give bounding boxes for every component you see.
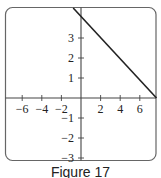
figure-caption: Figure 17 xyxy=(0,164,161,178)
x-tick-label: 2 xyxy=(98,102,104,116)
y-tick-label: −2 xyxy=(61,131,74,145)
y-tick-label: −3 xyxy=(61,151,74,165)
series-line xyxy=(73,8,156,98)
x-tick-label: 4 xyxy=(117,102,123,116)
y-tick-label: 3 xyxy=(68,31,74,45)
x-tick-label: −6 xyxy=(16,102,29,116)
y-tick-label: −1 xyxy=(61,111,74,125)
x-tick-label: 6 xyxy=(137,102,143,116)
y-tick-label: 2 xyxy=(68,51,74,65)
x-tick-label: −4 xyxy=(35,102,48,116)
figure-plot: −6−4−2246321−1−2−3 xyxy=(0,0,161,178)
y-tick-label: 1 xyxy=(68,71,74,85)
data-series xyxy=(73,8,156,98)
